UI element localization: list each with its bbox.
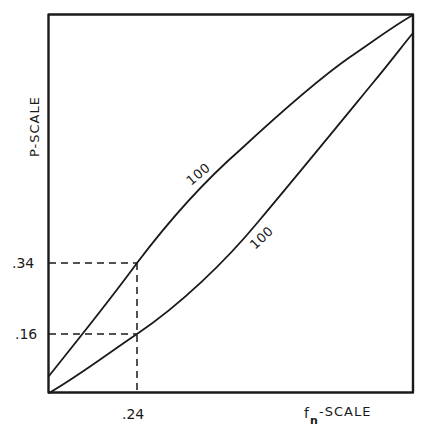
y-tick-label-034: .34 — [12, 255, 34, 271]
x-axis-title-scale: -SCALE — [319, 404, 371, 419]
curve-upper-label: 100 — [183, 160, 213, 188]
plot-frame — [49, 15, 414, 393]
x-axis-title-subscript: n — [310, 414, 319, 427]
y-axis-title: P-SCALE — [27, 96, 42, 157]
x-tick-label-024: .24 — [122, 406, 144, 422]
x-axis-title: f n -SCALE — [304, 404, 371, 427]
chart: 100 100 .34 .16 .24 P-SCALE f n -SCALE — [0, 0, 424, 446]
y-tick-label-016: .16 — [15, 326, 37, 342]
curve-upper — [49, 15, 413, 376]
curve-lower-label: 100 — [247, 223, 276, 252]
curve-lower — [49, 33, 413, 393]
